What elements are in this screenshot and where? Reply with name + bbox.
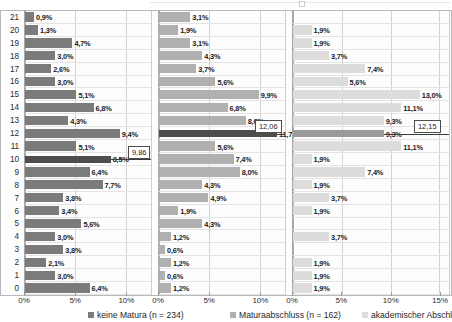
bar-row: 1,9%: [293, 269, 449, 282]
category-label: 5: [0, 218, 22, 231]
bar[interactable]: [25, 77, 55, 86]
category-label: 19: [0, 37, 22, 50]
bar[interactable]: [159, 232, 171, 241]
bar[interactable]: [25, 271, 55, 280]
bar[interactable]: [159, 64, 196, 73]
bar-row: [293, 11, 449, 24]
bar[interactable]: [159, 12, 190, 21]
bar[interactable]: [293, 258, 312, 267]
bar[interactable]: [25, 167, 90, 176]
category-label: 2: [0, 256, 22, 269]
bar[interactable]: [293, 180, 312, 189]
bar[interactable]: [25, 38, 72, 47]
legend-item-akademischer-abschluss[interactable]: akademischer Abschluss (n = 54): [362, 310, 452, 320]
bar-value-label: 3,1%: [192, 13, 208, 22]
bar[interactable]: [159, 116, 246, 125]
bar-value-label: 0,9%: [36, 13, 52, 22]
bar[interactable]: [25, 206, 59, 215]
bar[interactable]: [159, 25, 178, 34]
bar[interactable]: [159, 77, 215, 86]
bar-value-label: 1,9%: [314, 207, 330, 216]
bar-value-label: 7,4%: [367, 65, 383, 74]
bar[interactable]: [159, 193, 208, 202]
bar[interactable]: [25, 51, 55, 60]
category-label: 0: [0, 282, 22, 295]
bar[interactable]: [159, 103, 228, 112]
bar[interactable]: [293, 271, 312, 280]
bar[interactable]: [293, 206, 312, 215]
bar[interactable]: [293, 64, 365, 73]
bar-row: 5,1%: [25, 88, 151, 101]
bar[interactable]: [293, 130, 384, 136]
bar[interactable]: [293, 103, 401, 112]
bar[interactable]: [159, 258, 171, 267]
bar-value-label: 1,2%: [173, 232, 189, 241]
bar-value-label: 1,9%: [314, 155, 330, 164]
bar-value-label: 1,9%: [314, 284, 330, 293]
bar[interactable]: [159, 180, 202, 189]
bar[interactable]: [159, 283, 171, 292]
bar[interactable]: [159, 141, 215, 150]
bar[interactable]: [25, 232, 55, 241]
bar[interactable]: [159, 271, 165, 280]
bar[interactable]: [159, 90, 259, 99]
bar[interactable]: [25, 156, 111, 162]
mean-value-callout[interactable]: 12,15: [414, 120, 441, 133]
bar-value-label: 4,7%: [74, 39, 90, 48]
bar[interactable]: [25, 116, 68, 125]
category-label: 15: [0, 88, 22, 101]
mean-value-callout[interactable]: 9,86: [128, 146, 150, 159]
chart-resize-handle-top[interactable]: [299, 1, 305, 7]
legend-swatch-icon: [88, 312, 94, 318]
bar-value-label: 1,9%: [314, 258, 330, 267]
category-label: 6: [0, 205, 22, 218]
bar[interactable]: [159, 51, 202, 60]
chart-resize-handle-top-right[interactable]: [446, 2, 450, 6]
bar[interactable]: [159, 167, 240, 176]
bar[interactable]: [25, 141, 76, 150]
bar-row: 1,9%: [293, 24, 449, 37]
bar[interactable]: [293, 154, 312, 163]
bar[interactable]: [25, 219, 81, 228]
bar[interactable]: [25, 129, 120, 138]
bar[interactable]: [25, 90, 76, 99]
bar[interactable]: [293, 77, 348, 86]
bar[interactable]: [293, 193, 329, 202]
panel-akademischer-abschluss: 1,9%1,9%3,7%7,4%5,6%13,0%11,1%9,3%9,3%11…: [292, 11, 450, 295]
legend-item-maturaabschluss[interactable]: Maturaabschluss (n = 162): [230, 310, 341, 320]
bar[interactable]: [293, 232, 329, 241]
bar[interactable]: [25, 283, 90, 292]
bar[interactable]: [25, 25, 38, 34]
bar[interactable]: [293, 25, 312, 34]
bar-row: 3,0%: [25, 50, 151, 63]
bar[interactable]: [25, 103, 94, 112]
bar-row: 5,6%: [293, 76, 449, 89]
bar[interactable]: [25, 258, 46, 267]
axis-tick-label: 15%: [432, 296, 448, 305]
mean-leader-line: [277, 134, 285, 135]
bar[interactable]: [293, 116, 384, 125]
bar[interactable]: [25, 180, 103, 189]
bar[interactable]: [293, 38, 312, 47]
bar[interactable]: [293, 167, 365, 176]
bar-value-label: 1,9%: [314, 181, 330, 190]
bar[interactable]: [159, 206, 178, 215]
bar[interactable]: [159, 245, 165, 254]
value-axis-akademischer-abschluss: 0%5%10%15%: [292, 296, 450, 308]
bar[interactable]: [159, 219, 202, 228]
bar[interactable]: [159, 154, 234, 163]
mean-value-callout[interactable]: 12,06: [255, 120, 282, 133]
bar-row: 8,0%: [159, 166, 285, 179]
bar[interactable]: [293, 283, 312, 292]
bar[interactable]: [159, 38, 190, 47]
bar[interactable]: [293, 90, 420, 99]
bar[interactable]: [25, 245, 63, 254]
bar[interactable]: [25, 12, 34, 21]
bar[interactable]: [25, 64, 51, 73]
bar[interactable]: [293, 51, 329, 60]
bar[interactable]: [25, 193, 63, 202]
bar[interactable]: [293, 141, 401, 150]
bar-row: 11,1%: [293, 140, 449, 153]
legend-item-keine-matura[interactable]: keine Matura (n = 234): [88, 310, 184, 320]
bar-row: 4,3%: [159, 179, 285, 192]
